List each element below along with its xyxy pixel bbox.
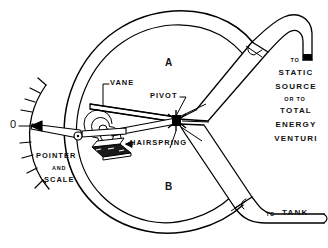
- vane-label: VANE: [110, 79, 134, 87]
- scale-arc: [30, 85, 49, 189]
- static-label-line6: ENERGY: [270, 121, 322, 129]
- static-label-line7: VENTURI: [269, 135, 323, 143]
- scale-ticks: [19, 78, 46, 188]
- static-label-line1: TO: [270, 58, 320, 64]
- static-label-line2: STATIC: [270, 69, 322, 77]
- lower-pipe: [235, 197, 327, 223]
- pointer-label-line2: AND: [52, 166, 66, 172]
- hairspring-shaft: [82, 128, 126, 137]
- chamber-a-label: A: [165, 58, 172, 68]
- static-label-line5: TOTAL: [271, 107, 321, 115]
- pointer-label-line3: SCALE: [44, 176, 74, 184]
- pointer-label-line1: POINTER: [36, 152, 76, 160]
- lower-duct: [179, 124, 252, 211]
- pointer-hinge: [74, 132, 82, 140]
- vane-blade: [90, 104, 176, 122]
- upper-duct: [178, 42, 268, 121]
- tank-label: TANK: [282, 209, 308, 217]
- diagram-canvas: A B VANE PIVOT HAIRSPRING POINTER AND SC…: [0, 0, 328, 248]
- upper-pipe: [248, 15, 312, 60]
- hairspring-mount: [92, 138, 131, 160]
- zero-mark-label: 0: [10, 119, 16, 130]
- hairspring-label: HAIRSPRING: [130, 139, 187, 147]
- static-label-line4: OR TO: [270, 97, 320, 103]
- static-label-line3: SOURCE: [269, 83, 323, 91]
- pivot-label: PIVOT: [150, 92, 178, 100]
- chamber-b-label: B: [165, 182, 172, 192]
- tank-label-prefix: TO: [266, 212, 275, 218]
